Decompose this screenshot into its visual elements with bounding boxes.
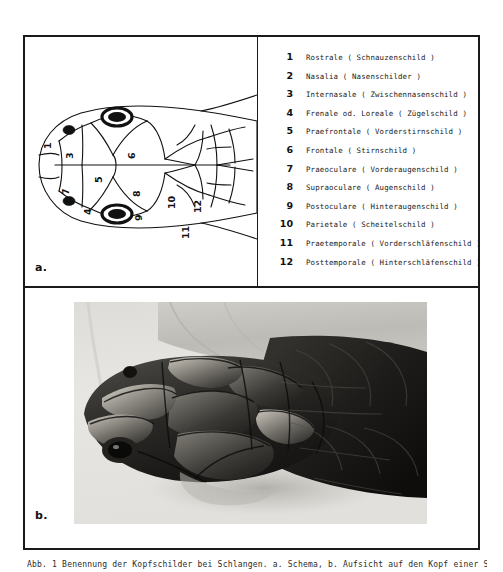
diagram-callout-5: 5 <box>93 176 104 183</box>
legend-number: 12 <box>269 256 293 267</box>
panel-a-label: a. <box>35 261 47 274</box>
photo-nostril <box>123 366 137 378</box>
legend-label: Parietale ( Scheitelschild ) <box>306 220 435 229</box>
eye-lower-pupil <box>108 209 126 219</box>
legend-label: Rostrale ( Schnauzenschild ) <box>306 53 435 62</box>
diagram-callout-6: 6 <box>126 152 137 159</box>
legend-number: 4 <box>269 107 293 118</box>
snake-head-photo-svg <box>74 302 427 524</box>
legend-label: Praefrontale ( Vorderstirnschild ) <box>306 127 462 136</box>
diagram-callout-9: 9 <box>133 214 144 221</box>
head-outline-group <box>39 95 257 239</box>
panel-a: 1 2 3 4 5 6 7 8 9 10 11 12 <box>25 37 478 288</box>
legend-number: 1 <box>269 51 293 62</box>
legend-item-8: 8 Supraoculare ( Augenschild ) <box>269 181 475 200</box>
snake-head-diagram-svg: 1 2 3 4 5 6 7 8 9 10 11 12 <box>25 37 257 288</box>
snake-head-photo <box>74 302 427 524</box>
legend-item-11: 11 Praetemporale ( Vorderschläfenschild … <box>269 237 475 256</box>
legend-label: Postoculare ( Hinteraugenschild ) <box>306 202 458 211</box>
legend-item-12: 12 Posttemporale ( Hinterschläfenschild … <box>269 256 475 275</box>
legend-label: Nasalia ( Nasenschilder ) <box>306 72 421 81</box>
legend-item-3: 3 Internasale ( Zwischennasenschild ) <box>269 88 475 107</box>
legend-item-4: 4 Frenale od. Loreale ( Zügelschild ) <box>269 107 475 126</box>
legend-number: 6 <box>269 144 293 155</box>
legend-number: 8 <box>269 181 293 192</box>
diagram-callout-7: 7 <box>60 188 71 195</box>
legend-item-1: 1 Rostrale ( Schnauzenschild ) <box>269 51 475 70</box>
photo-eye <box>108 442 132 459</box>
diagram-callout-11: 11 <box>180 226 191 239</box>
snake-head-diagram: 1 2 3 4 5 6 7 8 9 10 11 12 <box>25 37 257 288</box>
legend-number: 11 <box>269 237 293 248</box>
diagram-callout-8: 8 <box>131 190 142 197</box>
photo-eye-glint <box>113 445 119 449</box>
neck-line-bottom <box>201 223 257 239</box>
legend-label: Praetemporale ( Vorderschläfenschild ) <box>306 239 481 248</box>
nostril-upper <box>63 126 75 135</box>
diagram-callout-10: 10 <box>166 195 177 209</box>
legend-item-7: 7 Praeoculare ( Vorderaugenschild ) <box>269 163 475 182</box>
panel-b-label: b. <box>35 509 48 522</box>
legend-label: Posttemporale ( Hinterschläfenschild ) <box>306 258 481 267</box>
figure-caption: Abb. 1 Benennung der Kopfschilder bei Sc… <box>27 560 487 572</box>
legend-item-10: 10 Parietale ( Scheitelschild ) <box>269 218 475 237</box>
legend-item-5: 5 Praefrontale ( Vorderstirnschild ) <box>269 125 475 144</box>
legend-number: 2 <box>269 70 293 81</box>
legend-label: Frenale od. Loreale ( Zügelschild ) <box>306 109 467 118</box>
legend-number: 9 <box>269 200 293 211</box>
panel-b: b. <box>25 288 478 548</box>
panel-a-divider <box>257 37 258 288</box>
legend-number: 3 <box>269 88 293 99</box>
figure-root: 1 2 3 4 5 6 7 8 9 10 11 12 <box>0 0 503 572</box>
head-outline <box>39 106 257 228</box>
legend-number: 7 <box>269 163 293 174</box>
diagram-callout-2: 2 <box>65 198 76 205</box>
legend-item-6: 6 Frontale ( Stirnschild ) <box>269 144 475 163</box>
legend-label: Frontale ( Stirnschild ) <box>306 146 416 155</box>
figure-frame: 1 2 3 4 5 6 7 8 9 10 11 12 <box>23 35 480 550</box>
legend-label: Praeoculare ( Vorderaugenschild ) <box>306 165 458 174</box>
diagram-callout-1: 1 <box>42 142 53 149</box>
legend-item-9: 9 Postoculare ( Hinteraugenschild ) <box>269 200 475 219</box>
legend-label: Internasale ( Zwischennasenschild ) <box>306 90 467 99</box>
eye-upper-pupil <box>108 112 126 122</box>
legend-item-2: 2 Nasalia ( Nasenschilder ) <box>269 70 475 89</box>
legend-number: 5 <box>269 125 293 136</box>
legend-number: 10 <box>269 218 293 229</box>
legend-list: 1 Rostrale ( Schnauzenschild ) 2 Nasalia… <box>269 51 475 281</box>
diagram-callout-12: 12 <box>192 200 203 213</box>
neck-line-top <box>201 95 257 111</box>
diagram-callout-4: 4 <box>82 208 93 215</box>
diagram-callout-3: 3 <box>64 152 75 159</box>
legend-label: Supraoculare ( Augenschild ) <box>306 183 435 192</box>
